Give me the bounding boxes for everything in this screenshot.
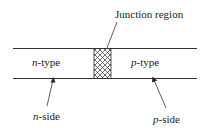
n-type-rest: -type xyxy=(38,56,61,68)
junction-leader-line xyxy=(107,22,117,48)
n-side-rest: -side xyxy=(39,110,60,122)
p-side-arrow-line xyxy=(154,80,166,108)
p-type-rest: -type xyxy=(137,56,160,68)
p-side-label: p-side xyxy=(153,114,180,125)
n-side-label: n-side xyxy=(33,111,60,122)
n-side-arrowhead-icon xyxy=(51,77,56,83)
p-type-label: p-type xyxy=(131,57,159,68)
junction-region-hatch xyxy=(94,49,111,79)
n-type-label: n-type xyxy=(32,57,60,68)
junction-region-label: Junction region xyxy=(115,9,183,20)
pn-junction-diagram: Junction region n-type p-type n-side p-s… xyxy=(0,0,203,133)
p-side-rest: -side xyxy=(159,113,180,125)
n-side-arrow-line xyxy=(47,80,53,106)
